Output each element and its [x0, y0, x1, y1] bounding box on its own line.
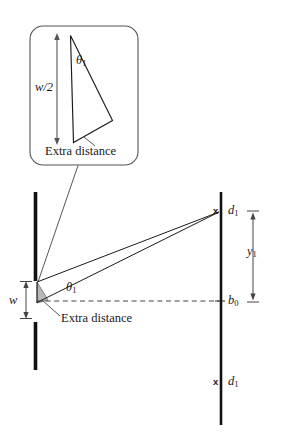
- slit-width-label: w: [9, 294, 17, 307]
- ray-from-slit-top: [37, 212, 219, 282]
- inset-angle-label: θ1: [76, 54, 86, 68]
- upper-minimum-label: d1: [228, 204, 239, 218]
- inset-half-width-label: w/2: [35, 81, 53, 94]
- main-extra-distance-label: Extra distance: [61, 312, 132, 325]
- central-maximum-label: b0: [228, 294, 239, 308]
- diffraction-diagram: [0, 0, 283, 447]
- ray-from-slit-bottom: [37, 212, 219, 303]
- y1-label: y1: [247, 245, 257, 259]
- lower-minimum-label: d1: [228, 375, 239, 389]
- inset-to-slit-leader: [38, 166, 78, 283]
- lower-minimum-marker: x: [213, 377, 218, 387]
- main-extra-distance-leader: [42, 300, 60, 316]
- slit-width-measure: [20, 281, 32, 319]
- main-angle-label: θ1: [66, 281, 76, 295]
- upper-minimum-marker: x: [213, 206, 218, 216]
- inset-extra-distance-label: Extra distance: [45, 145, 116, 158]
